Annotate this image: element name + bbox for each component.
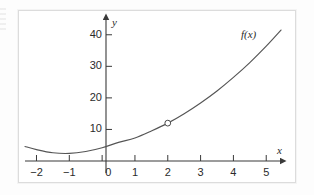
x-tick-label: 5: [263, 167, 269, 178]
function-curve: [25, 30, 281, 153]
y-axis-group: [106, 19, 112, 173]
point-marker-group: [165, 120, 171, 126]
y-axis-ticks: [106, 35, 112, 130]
x-axis-group: [25, 155, 281, 161]
x-tick-label: −2: [30, 167, 43, 178]
x-axis-ticks: [36, 155, 266, 161]
y-tick-label: 20: [82, 92, 102, 103]
x-tick-label: 1: [132, 167, 138, 178]
open-point-marker: [165, 120, 171, 126]
edge-artifact: [0, 8, 6, 30]
y-tick-label: 30: [82, 60, 102, 71]
figure-root: −2−101234510203040 x y f(x): [0, 0, 314, 195]
x-tick-label: 0: [105, 167, 111, 178]
x-tick-label: 3: [198, 167, 204, 178]
x-tick-label: 2: [165, 167, 171, 178]
y-tick-label: 10: [82, 123, 102, 134]
y-axis-label: y: [112, 17, 117, 28]
function-curve-label: f(x): [241, 29, 256, 40]
plot-frame: −2−101234510203040 x y f(x): [18, 10, 296, 183]
y-tick-label: 40: [82, 29, 102, 40]
x-tick-label: 4: [230, 167, 236, 178]
x-tick-label: −1: [63, 167, 76, 178]
x-axis-label: x: [277, 145, 282, 156]
